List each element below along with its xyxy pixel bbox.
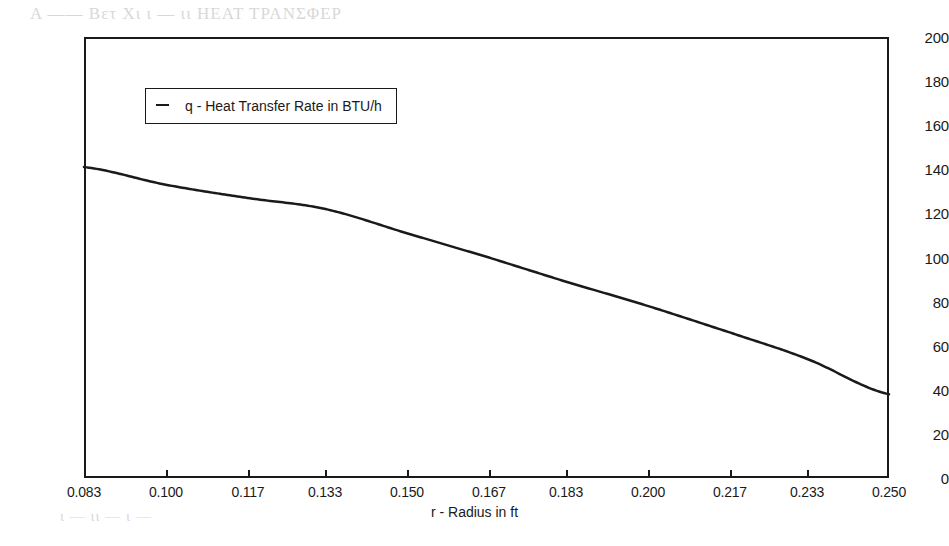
x-axis-tick-mark (489, 470, 491, 478)
x-axis-tick-label: 0.250 (844, 484, 934, 500)
legend-entry-label: q - Heat Transfer Rate in BTU/h (185, 98, 382, 114)
legend-line-swatch-icon (156, 104, 169, 106)
x-axis-tick-label: 0.183 (521, 484, 611, 500)
x-axis-tick-mark (248, 470, 250, 478)
x-axis-tick-label: 0.100 (121, 484, 211, 500)
x-axis-tick-mark (407, 470, 409, 478)
x-axis-tick-label: 0.233 (762, 484, 852, 500)
x-axis-tick-label: 0.150 (362, 484, 452, 500)
x-axis-tick-mark (807, 470, 809, 478)
chart-legend: q - Heat Transfer Rate in BTU/h (145, 88, 397, 124)
x-axis-tick-label: 0.200 (603, 484, 693, 500)
x-axis-tick-label: 0.083 (39, 484, 129, 500)
x-axis-tick-mark (648, 470, 650, 478)
x-axis-tick-mark (166, 470, 168, 478)
chart-container: Α —— Βετ Χι ι — ιι ΗΕΑΤ ΤΡΑΝΣΦΕΡ — ι — ι… (0, 0, 949, 546)
x-axis-tick-mark (730, 470, 732, 478)
x-axis-title: r - Radius in ft (0, 504, 949, 520)
x-axis-tick-mark (566, 470, 568, 478)
x-axis-tick-label: 0.133 (280, 484, 370, 500)
x-axis-tick-mark (325, 470, 327, 478)
scan-artifact-text: Α —— Βετ Χι ι — ιι ΗΕΑΤ ΤΡΑΝΣΦΕΡ (30, 4, 342, 24)
